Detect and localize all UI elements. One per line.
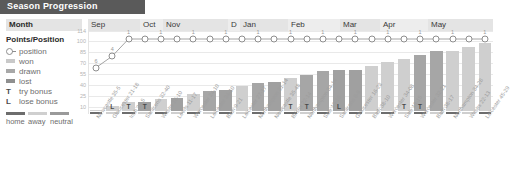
y-axis-tick-label: 40 [80,82,86,88]
position-point-label: 1 [257,29,260,35]
y-axis-tick-label: 100 [77,38,86,44]
legend-item-lose-bonus: Llose bonus [6,96,84,106]
month-label: Nov [166,20,180,29]
position-point-label: 1 [386,29,389,35]
position-point [157,36,164,43]
position-point [271,36,278,43]
month-cell: Jan [240,19,288,31]
position-point-label: 1 [224,29,227,35]
month-label: D [231,20,237,29]
legend-item-won: won [6,56,84,66]
position-point [174,36,181,43]
position-point [303,36,310,43]
month-row-label: Month [9,20,33,29]
legend-key: T [6,87,19,96]
legend-key [6,79,19,83]
y-axis-tick-label: 10 [80,104,86,110]
legend-item-label: drawn [19,67,41,76]
position-point-label: 6 [95,58,98,64]
month-cell: Feb [288,19,340,31]
lost-swatch-icon [6,79,15,83]
legend-item-position: position [6,46,84,56]
y-axis-tick-label: 114 [77,28,86,34]
venue-swatch-neutral [50,112,69,115]
position-point [481,36,488,43]
month-label: Sep [91,20,105,29]
month-cell: Nov [163,19,228,31]
legend-item-label: try bonus [19,87,52,96]
venue-swatch-away [28,112,47,115]
position-point [93,64,100,71]
legend-key: L [6,97,19,106]
y-axis-tick-label: 25 [80,93,86,99]
position-point [125,36,132,43]
position-point [222,36,229,43]
position-point-label: 1 [289,29,292,35]
legend-item-drawn: drawn [6,66,84,76]
position-point [465,36,472,43]
legend-key [6,48,19,55]
position-point-label: 1 [419,29,422,35]
legend-key [6,69,19,73]
position-point [449,36,456,43]
x-axis-labels: Newcastle 35-5Gloucester 21-18Irish 29-5… [88,116,493,177]
month-label: Oct [143,20,155,29]
legend-item-label: position [19,47,47,56]
position-point-label: 4 [111,46,114,52]
month-header-row: MonthSepOctNovDJanFebMarAprMay [0,19,497,31]
position-point [141,36,148,43]
position-point-label: 1 [127,29,130,35]
month-label: Mar [343,20,357,29]
position-marker-icon [6,48,13,55]
month-cell: D [228,19,240,31]
month-label: Jan [243,20,256,29]
legend-item-label: won [19,57,34,66]
venue-key: homeawayneutral [6,112,84,126]
month-cell: Mar [340,19,380,31]
position-point [190,36,197,43]
month-label: Apr [383,20,395,29]
drawn-swatch-icon [6,69,15,73]
lose-bonus-icon: L [6,97,19,106]
legend-item-try-bonus: Ttry bonus [6,86,84,96]
position-point [206,36,213,43]
position-point [400,36,407,43]
position-point [384,36,391,43]
position-point [368,36,375,43]
position-point [238,36,245,43]
y-axis-tick-label: 85 [80,49,86,55]
legend-item-lost: lost [6,76,84,86]
legend-key [6,59,19,63]
position-point-label: 1 [354,29,357,35]
month-label: Feb [291,20,305,29]
venue-swatch-home [6,112,25,115]
month-cell: Sep [88,19,140,31]
legend-item-label: lost [19,77,31,86]
position-point [287,36,294,43]
legend-heading: Points/Position [6,35,84,44]
position-point [255,36,262,43]
position-point-label: 1 [192,29,195,35]
venue-label-away: away [28,117,47,126]
widget-title-bar: Season Progression [0,0,145,14]
position-point-label: 1 [451,29,454,35]
position-point [352,36,359,43]
position-point [336,36,343,43]
position-point [319,36,326,43]
try-bonus-icon: T [6,87,19,96]
legend-item-label: lose bonus [19,97,58,106]
month-label: May [431,20,446,29]
page-title: Season Progression [7,1,98,11]
venue-label-neutral: neutral [50,117,69,126]
month-row-label-cell: Month [6,19,82,31]
position-point-label: 1 [159,29,162,35]
position-point [433,36,440,43]
venue-label-home: home [6,117,25,126]
position-point-label: 1 [483,29,486,35]
won-swatch-icon [6,59,15,63]
legend-panel: Points/Position positionwondrawnlostTtry… [6,35,84,106]
y-axis-tick-label: 55 [80,71,86,77]
position-point [109,53,116,60]
position-point-label: 1 [321,29,324,35]
